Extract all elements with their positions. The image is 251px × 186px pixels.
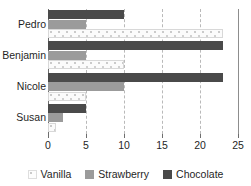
chart-legend: VanillaStrawberryChocolate [0, 164, 251, 184]
x-tick-label-20: 20 [194, 139, 206, 151]
bar-chart: PedroBenjaminNicoleSusan 0510152025 Vani… [0, 0, 251, 186]
x-tick-mark-5 [86, 134, 87, 138]
y-axis-label-nicole: Nicole [0, 80, 46, 92]
x-tick-label-5: 5 [83, 139, 89, 151]
x-tick-mark-0 [48, 134, 49, 138]
legend-item-chocolate[interactable]: Chocolate [163, 168, 223, 180]
bar-susan-strawberry [48, 113, 63, 122]
x-tick-mark-15 [162, 134, 163, 138]
bar-nicole-chocolate [48, 73, 223, 82]
bar-susan-vanilla [48, 123, 56, 132]
x-tick-mark-20 [200, 134, 201, 138]
bar-group [48, 72, 238, 103]
bar-group [48, 103, 238, 134]
x-tick-label-25: 25 [232, 139, 244, 151]
legend-item-vanilla[interactable]: Vanilla [28, 168, 72, 180]
gridline-25 [238, 9, 239, 134]
y-axis-label-pedro: Pedro [0, 18, 46, 30]
bar-group [48, 9, 238, 40]
y-axis-category-labels: PedroBenjaminNicoleSusan [0, 9, 46, 134]
legend-swatch-strawberry-icon [85, 170, 94, 179]
x-tick-label-0: 0 [45, 139, 51, 151]
x-tick-label-15: 15 [156, 139, 168, 151]
x-tick-mark-25 [238, 134, 239, 138]
bar-benjamin-strawberry [48, 51, 86, 60]
y-axis-label-benjamin: Benjamin [0, 49, 46, 61]
bar-benjamin-chocolate [48, 41, 223, 50]
bar-group [48, 40, 238, 71]
plot-area [48, 9, 238, 134]
legend-label: Chocolate [176, 168, 223, 180]
x-axis: 0510152025 [48, 134, 238, 154]
legend-item-strawberry[interactable]: Strawberry [85, 168, 149, 180]
bar-pedro-strawberry [48, 20, 86, 29]
bar-pedro-chocolate [48, 10, 124, 19]
legend-swatch-vanilla-icon [28, 170, 37, 179]
x-tick-label-10: 10 [118, 139, 130, 151]
legend-swatch-chocolate-icon [163, 170, 172, 179]
bar-pedro-vanilla [48, 29, 223, 38]
bar-benjamin-vanilla [48, 60, 124, 69]
y-axis-label-susan: Susan [0, 111, 46, 123]
bar-nicole-strawberry [48, 82, 124, 91]
bar-nicole-vanilla [48, 92, 86, 101]
x-tick-mark-10 [124, 134, 125, 138]
legend-label: Vanilla [41, 168, 72, 180]
bar-susan-chocolate [48, 104, 86, 113]
legend-label: Strawberry [98, 168, 149, 180]
